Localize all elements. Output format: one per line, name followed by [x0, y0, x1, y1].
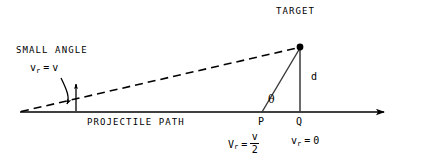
vr-half-equals: = [241, 140, 247, 150]
target-point-dot [297, 44, 304, 51]
target-label: TARGET [276, 7, 315, 16]
vr-half-fraction: v 2 [250, 132, 259, 155]
vr-half-numerator: v [251, 132, 259, 142]
vr-half-denominator: 2 [251, 145, 259, 155]
vr-full-equals: = [43, 63, 49, 73]
line-of-sight-dashed [21, 48, 299, 112]
distance-d-label: d [311, 72, 318, 82]
vr-zero-subscript: r [297, 141, 301, 148]
projectile-path-label: PROJECTILE PATH [87, 118, 185, 127]
small-angle-pointer-arrow [61, 78, 68, 104]
radial-velocity-full-expression: vr = v [30, 63, 58, 73]
point-q-label: Q [296, 117, 303, 127]
diagram-canvas [0, 0, 426, 166]
radial-velocity-half-expression: Vr = v 2 [228, 133, 259, 156]
vr-zero-value: 0 [313, 136, 319, 146]
vr-full-value: v [52, 63, 58, 73]
small-angle-label: SMALL ANGLE [16, 46, 88, 55]
projectile-target-diagram: SMALL ANGLE PROJECTILE PATH TARGET d θ P… [0, 0, 426, 166]
vr-half-subscript: r [234, 144, 238, 151]
vr-zero-equals: = [304, 136, 310, 146]
vr-full-subscript: r [36, 68, 40, 75]
point-p-label: P [258, 117, 265, 127]
radial-velocity-zero-expression: vr = 0 [291, 136, 319, 146]
theta-angle-label: θ [268, 94, 275, 105]
